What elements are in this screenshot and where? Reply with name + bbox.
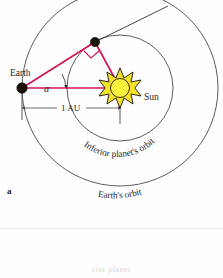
earth-body-dot [17,83,27,93]
earth-label: Earth [10,68,31,78]
alpha-angle-arc [62,74,66,88]
page-seam-divider [0,228,223,229]
panel-letter-label: a [7,186,12,196]
inferior-planet-body-dot [90,37,99,46]
orbit-diagram: Earth Sun α 1 AU Inferior planet's orbit… [0,0,223,278]
sun-disk-shape [111,79,130,98]
sun-label: Sun [144,92,159,102]
one-au-label: 1 AU [61,103,81,113]
inferior-planet-orbit-label: Inferior planet's orbit [82,136,156,159]
sun-glyph [99,68,141,108]
figure-panel-a: Earth Sun α 1 AU Inferior planet's orbit… [0,0,223,278]
right-angle-marker [84,51,99,58]
earth-orbit-label: Earth's orbit [97,186,143,200]
leg-earth-to-planet [22,42,95,88]
alpha-angle-label: α [44,83,50,94]
next-figure-caption-bleed: rior planet [0,256,223,278]
